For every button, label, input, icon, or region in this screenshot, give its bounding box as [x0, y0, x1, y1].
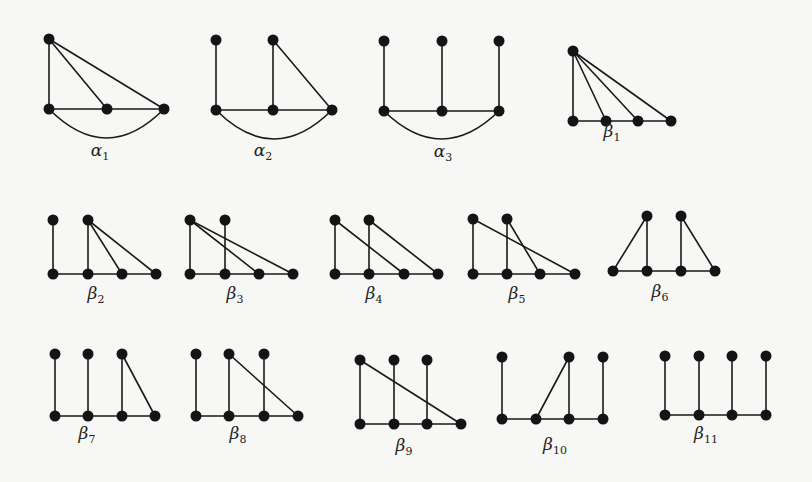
vertex	[761, 410, 772, 421]
graph-label: β2	[87, 283, 105, 306]
vertex	[50, 411, 61, 422]
vertex	[568, 46, 579, 57]
graph-label: β9	[395, 435, 413, 458]
vertex	[330, 215, 341, 226]
vertex	[330, 269, 341, 280]
graph-beta2: β2	[48, 215, 162, 307]
vertex	[83, 269, 94, 280]
edge	[88, 220, 156, 274]
graph-label: β10	[542, 434, 567, 457]
vertex	[220, 269, 231, 280]
vertex	[389, 355, 400, 366]
vertex	[151, 269, 162, 280]
vertex	[117, 349, 128, 360]
vertex	[117, 411, 128, 422]
edge	[536, 357, 569, 419]
vertex	[150, 411, 161, 422]
edge	[573, 51, 606, 121]
vertex	[497, 414, 508, 425]
vertex	[355, 419, 366, 430]
vertex	[422, 355, 433, 366]
vertex	[185, 269, 196, 280]
vertex	[293, 411, 304, 422]
vertex	[633, 116, 644, 127]
vertex	[598, 414, 609, 425]
edge	[573, 51, 638, 121]
vertex	[389, 419, 400, 430]
edge	[49, 39, 164, 109]
vertex	[224, 411, 235, 422]
vertex	[211, 105, 222, 116]
vertex	[608, 266, 619, 277]
vertex	[220, 215, 231, 226]
graph-beta8: β8	[191, 349, 304, 447]
vertex	[44, 104, 55, 115]
vertex	[535, 269, 546, 280]
graph-beta10: β10	[497, 352, 609, 458]
graph-beta4: β4	[330, 215, 444, 307]
graph-label: β11	[693, 423, 718, 446]
vertex	[642, 266, 653, 277]
vertex	[531, 414, 542, 425]
vertex	[502, 214, 513, 225]
vertex	[468, 214, 479, 225]
vertex	[44, 34, 55, 45]
vertex	[456, 419, 467, 430]
vertex	[254, 269, 265, 280]
vertex	[159, 104, 170, 115]
vertex	[399, 269, 410, 280]
edge	[681, 216, 715, 271]
graph-beta3: β3	[185, 215, 299, 307]
vertex	[211, 35, 222, 46]
vertex	[185, 215, 196, 226]
vertex	[117, 269, 128, 280]
graph-beta9: β9	[355, 355, 467, 459]
vertex	[379, 106, 390, 117]
vertex	[259, 349, 270, 360]
vertex	[468, 269, 479, 280]
vertex	[694, 351, 705, 362]
graph-label: α2	[254, 140, 272, 163]
vertex	[598, 352, 609, 363]
vertex	[48, 215, 59, 226]
vertex	[676, 266, 687, 277]
vertex	[50, 349, 61, 360]
edge	[190, 220, 293, 274]
edge	[122, 354, 155, 416]
edge	[88, 220, 122, 274]
edge	[49, 39, 107, 109]
graph-label: β4	[365, 283, 383, 306]
vertex	[327, 105, 338, 116]
vertex	[494, 106, 505, 117]
graph-label: β5	[508, 283, 526, 306]
vertex	[191, 411, 202, 422]
vertex	[502, 269, 513, 280]
vertex	[433, 269, 444, 280]
graph-label: α1	[91, 140, 109, 163]
graph-label: β8	[229, 423, 247, 446]
vertex	[288, 269, 299, 280]
vertex	[191, 349, 202, 360]
vertex	[364, 269, 375, 280]
graph-label: β6	[651, 281, 669, 304]
vertex	[364, 215, 375, 226]
edge	[613, 216, 647, 271]
vertex	[259, 411, 270, 422]
graph-alpha2: α2	[211, 35, 338, 164]
graph-label: β3	[226, 283, 244, 306]
graph-label: β1	[603, 121, 621, 144]
vertex	[83, 411, 94, 422]
graph-beta6: β6	[608, 211, 721, 305]
vertex	[666, 116, 677, 127]
vertex	[497, 352, 508, 363]
vertex	[379, 36, 390, 47]
vertex	[694, 410, 705, 421]
edge	[573, 51, 671, 121]
edge	[473, 219, 575, 274]
edge	[360, 360, 461, 424]
vertex	[727, 351, 738, 362]
graph-label: β7	[78, 423, 96, 446]
vertex	[660, 351, 671, 362]
graph-alpha3: α3	[379, 36, 505, 165]
vertex	[494, 36, 505, 47]
